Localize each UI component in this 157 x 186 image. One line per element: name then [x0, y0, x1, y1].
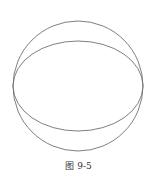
sphere-outline — [13, 21, 143, 151]
figure-caption: 图 9-5 — [0, 159, 157, 172]
equator-ellipse — [13, 41, 143, 131]
